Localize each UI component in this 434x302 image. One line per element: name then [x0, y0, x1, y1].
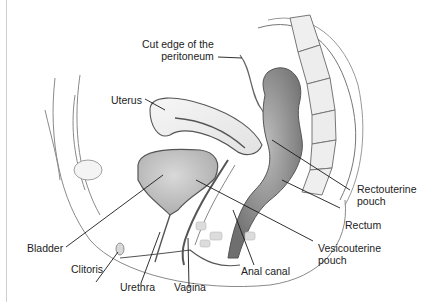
label-vagina: Vagina: [174, 281, 206, 293]
label-line: pouch: [318, 254, 381, 266]
label-clitoris: Clitoris: [71, 263, 103, 275]
label-line: Rectouterine: [357, 183, 417, 195]
label-line: pouch: [357, 195, 417, 207]
label-rectum: Rectum: [345, 219, 381, 231]
label-line: peritoneum: [142, 50, 214, 62]
diagram-canvas: Cut edge of the peritoneum Uterus Rectou…: [0, 0, 434, 302]
label-uterus: Uterus: [111, 94, 142, 106]
perineum: [120, 250, 240, 266]
label-urethra: Urethra: [120, 281, 155, 293]
label-vesicouterine-pouch: Vesicouterine pouch: [318, 242, 381, 266]
bladder-shape: [138, 149, 218, 215]
label-bladder: Bladder: [27, 242, 63, 254]
label-cut-edge-of-peritoneum: Cut edge of the peritoneum: [142, 38, 214, 62]
label-anal-canal: Anal canal: [241, 265, 290, 277]
label-line: Cut edge of the: [142, 38, 214, 50]
label-rectouterine-pouch: Rectouterine pouch: [357, 183, 417, 207]
label-line: Vesicouterine: [318, 242, 381, 254]
uterus-shape: [150, 98, 262, 155]
